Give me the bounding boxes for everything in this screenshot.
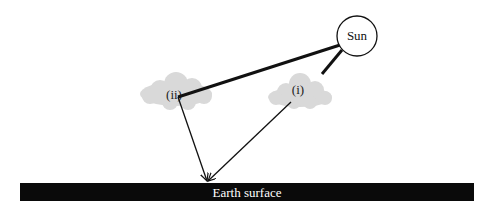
sun-label: Sun — [347, 28, 368, 43]
ray-cloud-ii-to-earth — [178, 97, 207, 181]
diagram: Earth surface (ii) (i) Sun — [0, 0, 493, 213]
diagram-canvas: Earth surface (ii) (i) Sun — [0, 0, 493, 213]
cloud-i-label: (i) — [292, 82, 304, 97]
earth-label: Earth surface — [213, 185, 282, 200]
ray-sun-to-cloud-i — [322, 50, 342, 74]
ray-cloud-i-to-earth — [208, 102, 291, 181]
